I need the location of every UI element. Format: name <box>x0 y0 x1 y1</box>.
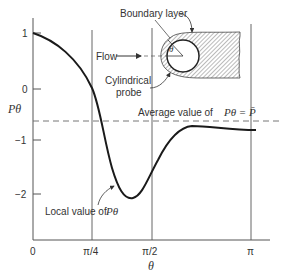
y-tick-1: 1 <box>22 28 28 39</box>
x-tick-pi-2: π/2 <box>142 246 158 257</box>
probe-label: probe <box>116 87 142 98</box>
average-value-label: Average value of <box>138 107 213 118</box>
x-tick-pi: π <box>247 246 254 257</box>
x-axis-label: θ <box>148 259 154 273</box>
local-value-symbol: Pθ <box>105 205 119 217</box>
local-value-label: Local value of <box>45 206 107 217</box>
theta-label: θ <box>169 44 174 54</box>
cylindrical-label: Cylindrical <box>105 75 151 86</box>
boundary-layer-label: Boundary layer <box>120 8 188 19</box>
local-value-leader <box>98 186 114 205</box>
pressure-distribution-chart: 1 0 −1 −2 0 π/4 π/2 π Pθ θ θ Boundary la… <box>0 0 287 273</box>
y-tick-neg2: −2 <box>15 189 27 200</box>
average-value-symbol: Pθ = P̄ <box>223 106 256 118</box>
flow-label: Flow <box>96 51 118 62</box>
x-tick-pi-4: π/4 <box>83 246 99 257</box>
y-tick-0: 0 <box>22 84 28 95</box>
y-axis-label: Pθ <box>7 102 21 116</box>
y-tick-neg1: −1 <box>15 135 27 146</box>
x-tick-0: 0 <box>30 246 36 257</box>
